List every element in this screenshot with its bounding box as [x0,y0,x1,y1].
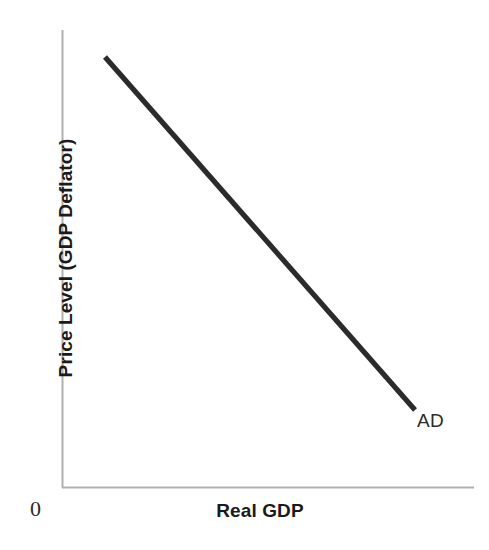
x-axis-label: Real GDP [150,500,370,522]
y-axis-label: Price Level (GDP Deflator) [46,78,86,438]
origin-label: 0 [30,498,41,520]
ad-curve-label: AD [417,411,444,430]
ad-curve-line [105,57,415,410]
aggregate-demand-chart: Price Level (GDP Deflator) Real GDP 0 AD [0,0,489,550]
